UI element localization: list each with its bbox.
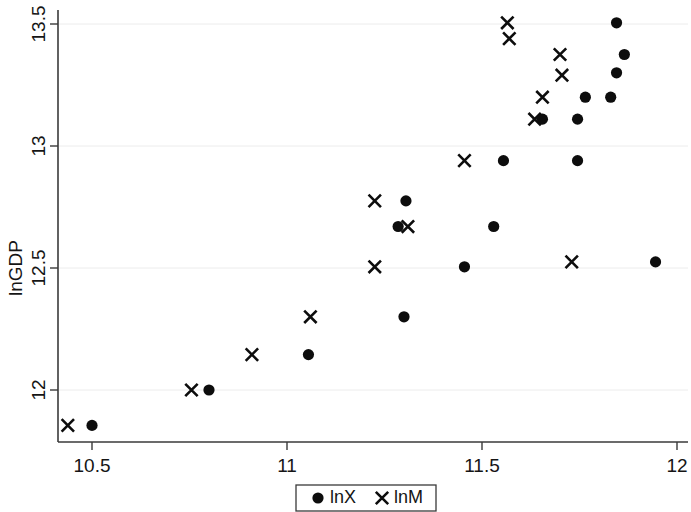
series-lnM-point-14 xyxy=(566,256,578,268)
series-lnX-point-12 xyxy=(580,92,591,103)
gridlines xyxy=(59,24,688,390)
y-tick-label-2: 13 xyxy=(28,135,49,156)
legend-label-lnM: lnM xyxy=(394,487,423,507)
plot-svg: 1212.51313.5 10.51111.512 lnGDP lnXlnM xyxy=(0,0,691,512)
y-tick-label-3: 13.5 xyxy=(28,6,49,43)
series-lnX-point-10 xyxy=(537,114,548,125)
chart-legend: lnXlnM xyxy=(296,485,436,511)
legend-marker-lnX-point-0 xyxy=(312,492,323,503)
series-lnX-point-17 xyxy=(650,256,661,267)
series-lnM-point-10 xyxy=(554,48,566,60)
series-lnX-point-14 xyxy=(611,67,622,78)
series-lnM-point-9 xyxy=(503,32,515,44)
series-lnX-point-6 xyxy=(393,221,404,232)
legend-label-lnX: lnX xyxy=(330,487,356,507)
series-lnX-point-16 xyxy=(611,17,622,28)
y-axis-ticks: 1212.51313.5 xyxy=(28,6,58,401)
series-lnM-point-11 xyxy=(556,69,568,81)
y-tick-label-0: 12 xyxy=(28,379,49,400)
x-axis-ticks: 10.51111.512 xyxy=(74,442,688,476)
y-tick-label-1: 12.5 xyxy=(28,250,49,287)
series-lnM-point-5 xyxy=(369,195,381,207)
series-lnX-point-7 xyxy=(488,221,499,232)
series-lnX-markers xyxy=(86,17,661,431)
series-lnX-point-2 xyxy=(303,349,314,360)
series-lnX-point-13 xyxy=(605,92,616,103)
x-tick-label-1: 11 xyxy=(277,455,297,476)
series-lnM-point-7 xyxy=(458,154,470,166)
series-lnX-point-8 xyxy=(498,155,509,166)
series-lnM-markers xyxy=(62,17,578,432)
axis-lines xyxy=(58,10,688,442)
series-lnM-point-8 xyxy=(501,17,513,29)
series-lnX-point-15 xyxy=(619,49,630,60)
series-lnX-point-3 xyxy=(398,311,409,322)
series-lnM-point-0 xyxy=(62,419,74,431)
x-tick-label-3: 12 xyxy=(666,455,687,476)
series-lnX-point-0 xyxy=(86,420,97,431)
series-lnM-point-2 xyxy=(246,348,258,360)
series-lnX-point-1 xyxy=(203,384,214,395)
y-axis-title: lnGDP xyxy=(5,240,26,296)
x-tick-label-0: 10.5 xyxy=(74,455,111,476)
series-lnM-point-3 xyxy=(304,311,316,323)
x-tick-label-2: 11.5 xyxy=(464,455,500,476)
scatter-chart: 1212.51313.5 10.51111.512 lnGDP lnXlnM xyxy=(0,0,691,512)
series-lnM-point-12 xyxy=(536,91,548,103)
series-lnM-point-4 xyxy=(369,261,381,273)
series-lnX-point-9 xyxy=(572,155,583,166)
series-lnX-point-11 xyxy=(572,114,583,125)
series-lnX-point-5 xyxy=(400,195,411,206)
series-lnX-point-4 xyxy=(459,261,470,272)
